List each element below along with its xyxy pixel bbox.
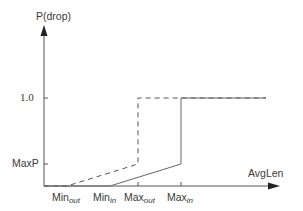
- y-tick-label-1-0: 1.0: [20, 91, 34, 103]
- y-axis-label: P(drop): [36, 10, 71, 22]
- y-axis-arrow-icon: [41, 25, 48, 36]
- red-drop-probability-diagram: [0, 0, 303, 211]
- dashed-out-curve: [44, 98, 266, 186]
- x-tick-label-max-out: Maxout: [124, 191, 155, 205]
- x-tick-label-min-out: Minout: [52, 191, 80, 205]
- y-tick-label-maxp: MaxP: [12, 157, 39, 169]
- x-axis-arrow-icon: [268, 183, 280, 190]
- x-tick-label-max-in: Maxin: [167, 191, 193, 205]
- x-tick-label-min-in: Minin: [93, 191, 116, 205]
- solid-in-curve: [44, 98, 266, 186]
- x-axis-label: AvgLen: [248, 167, 283, 179]
